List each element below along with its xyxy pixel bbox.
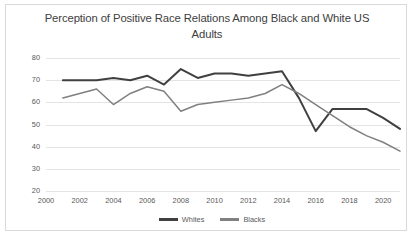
- y-axis-tick-label: 20: [10, 186, 40, 195]
- series-line-blacks: [63, 85, 400, 152]
- data-series-lines: [46, 58, 400, 191]
- y-axis-tick-label: 30: [10, 164, 40, 173]
- legend-label: Whites: [182, 215, 205, 224]
- gridline: [46, 191, 400, 192]
- y-axis-tick-label: 50: [10, 120, 40, 129]
- legend-swatch-icon: [159, 218, 178, 220]
- legend-item-whites[interactable]: Whites: [159, 215, 205, 224]
- legend-item-blacks[interactable]: Blacks: [220, 215, 265, 224]
- chart-title: Perception of Positive Race Relations Am…: [36, 11, 378, 42]
- legend-swatch-icon: [220, 218, 239, 220]
- y-axis-tick-label: 40: [10, 142, 40, 151]
- y-axis-tick-label: 80: [10, 53, 40, 62]
- plot-area: 20304050607080 2000200220042006200820102…: [46, 58, 400, 191]
- chart-container: Perception of Positive Race Relations Am…: [5, 4, 407, 231]
- x-axis-tick-label: 2020: [363, 196, 403, 205]
- y-axis-tick-label: 60: [10, 97, 40, 106]
- legend-label: Blacks: [243, 215, 265, 224]
- y-axis-tick-label: 70: [10, 75, 40, 84]
- chart-legend: WhitesBlacks: [6, 215, 414, 224]
